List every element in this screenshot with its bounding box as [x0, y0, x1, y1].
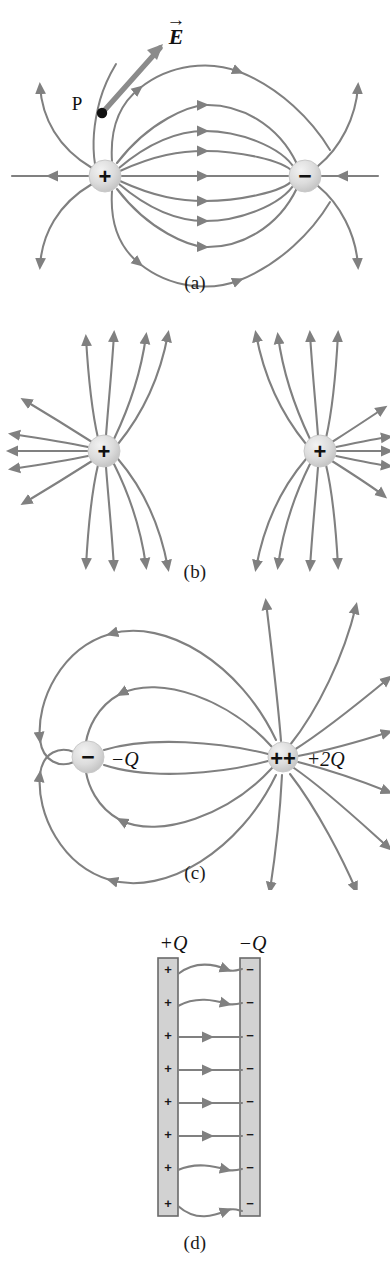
- field-line: [178, 1165, 242, 1170]
- panel-d-parallel-plates: +Q −Q + + + + + + + + − − −: [0, 890, 390, 1271]
- svg-text:+: +: [164, 995, 172, 1010]
- field-line: [12, 434, 88, 447]
- field-line: [117, 188, 297, 247]
- charge-sign-label: +: [314, 439, 327, 464]
- charge-label-minus-q: −Q: [112, 748, 139, 770]
- plate-label-negative: −Q: [240, 932, 267, 954]
- field-line: [86, 768, 272, 827]
- field-line: [106, 467, 114, 568]
- svg-text:+: +: [164, 1061, 172, 1076]
- panel-c-unequal-charges: − −Q ++ +2Q: [0, 590, 390, 890]
- charge-sign-label: +: [98, 439, 111, 464]
- field-line: [278, 464, 310, 566]
- field-line: [326, 334, 338, 438]
- field-line: [336, 437, 389, 447]
- field-line: [114, 336, 146, 439]
- charge-sign-label: ++: [270, 746, 296, 771]
- field-line: [86, 465, 98, 566]
- field-line: [294, 768, 389, 848]
- field-line: [12, 456, 88, 469]
- panel-a-dipole: P → E + −: [0, 0, 390, 300]
- panel-b-like-charges: + +: [0, 300, 390, 590]
- field-line: [178, 965, 242, 975]
- point-p-label: P: [72, 93, 83, 114]
- field-line: [24, 400, 92, 442]
- field-line: [332, 408, 384, 442]
- svg-text:−: −: [246, 1094, 254, 1109]
- panel-label-a: (a): [0, 272, 390, 294]
- field-line: [178, 1206, 242, 1216]
- charge-negative-c: −: [72, 741, 104, 773]
- svg-text:−: −: [246, 1127, 254, 1142]
- svg-text:+: +: [164, 962, 172, 977]
- field-line: [40, 631, 276, 764]
- svg-text:+: +: [164, 1028, 172, 1043]
- charge-negative-a: −: [289, 160, 321, 192]
- field-line: [294, 678, 389, 750]
- field-line: [112, 65, 330, 161]
- field-line: [86, 687, 272, 747]
- negative-plate: − − − − − − − −: [240, 958, 260, 1216]
- svg-text:+: +: [164, 1094, 172, 1109]
- field-line: [290, 606, 356, 745]
- plate-label-positive: +Q: [161, 932, 188, 954]
- e-vector-label: E: [168, 24, 184, 49]
- svg-text:+: +: [164, 1127, 172, 1142]
- panel-label-c: (c): [0, 862, 390, 884]
- field-line: [40, 184, 92, 266]
- charge-positive-b-left: +: [88, 435, 120, 467]
- field-line: [326, 465, 338, 566]
- charge-label-plus-2q: +2Q: [308, 748, 345, 770]
- charge-sign-label: −: [81, 744, 94, 770]
- svg-text:+: +: [164, 1160, 172, 1175]
- svg-text:−: −: [246, 1196, 254, 1211]
- field-lines-group-d: [178, 965, 242, 1217]
- field-line: [278, 336, 310, 439]
- field-line: [117, 105, 297, 164]
- svg-text:−: −: [246, 962, 254, 977]
- panel-label-b: (b): [0, 561, 390, 583]
- panel-label-d: (d): [0, 1232, 390, 1254]
- field-line: [120, 151, 293, 172]
- svg-text:−: −: [246, 1061, 254, 1076]
- field-line: [106, 334, 114, 436]
- charge-positive-b-right: +: [304, 435, 336, 467]
- svg-text:−: −: [246, 1028, 254, 1043]
- electric-field-lines-figure: P → E + − (a): [0, 0, 390, 1271]
- positive-plate: + + + + + + + +: [158, 958, 178, 1216]
- field-line: [318, 186, 358, 266]
- field-line: [318, 86, 358, 166]
- field-lines-group-a: [12, 64, 378, 287]
- point-p-marker: [97, 108, 107, 118]
- field-line: [178, 1000, 242, 1006]
- field-line: [332, 461, 384, 496]
- charge-sign-label: +: [99, 164, 112, 189]
- field-line: [310, 334, 318, 436]
- field-line: [114, 464, 146, 566]
- svg-text:+: +: [164, 1196, 172, 1211]
- svg-text:−: −: [246, 995, 254, 1010]
- field-line: [40, 86, 92, 168]
- charge-positive-a: +: [89, 160, 121, 192]
- charge-double-positive-c: ++: [268, 742, 298, 772]
- field-line: [120, 180, 293, 201]
- field-line: [24, 461, 92, 503]
- charge-sign-label: −: [298, 163, 311, 189]
- svg-text:−: −: [246, 1160, 254, 1175]
- field-line: [86, 338, 98, 438]
- field-line: [336, 456, 389, 466]
- field-line: [310, 467, 318, 568]
- field-line: [266, 602, 281, 741]
